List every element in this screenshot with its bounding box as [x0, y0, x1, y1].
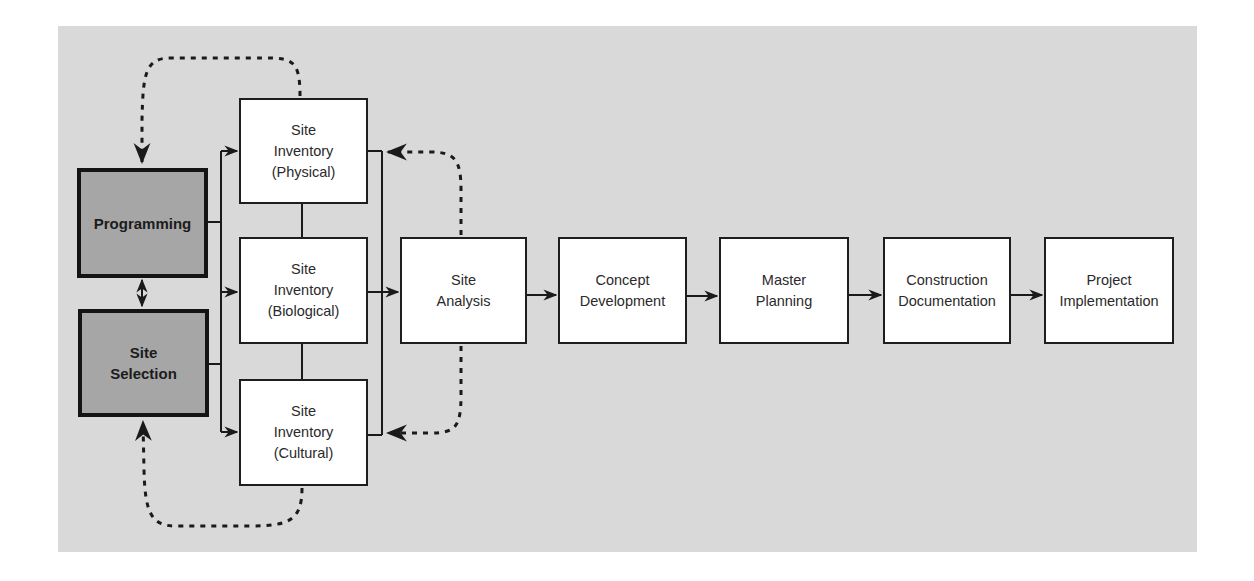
node-label: Site Selection [110, 342, 177, 384]
node-site-selection: Site Selection [78, 309, 209, 417]
node-label: Construction Documentation [898, 270, 996, 312]
node-site-inventory-physical: Site Inventory (Physical) [239, 98, 368, 204]
node-programming: Programming [77, 168, 208, 278]
node-label: Site Analysis [437, 270, 491, 312]
node-site-analysis: Site Analysis [400, 237, 527, 344]
node-label: Site Inventory (Biological) [268, 259, 340, 322]
node-label: Concept Development [580, 270, 665, 312]
node-label: Programming [94, 213, 192, 234]
node-label: Site Inventory (Physical) [272, 120, 336, 183]
node-label: Project Implementation [1059, 270, 1158, 312]
node-construction-documentation: Construction Documentation [883, 237, 1011, 344]
node-project-implementation: Project Implementation [1044, 237, 1174, 344]
node-site-inventory-biological: Site Inventory (Biological) [239, 237, 368, 344]
node-master-planning: Master Planning [719, 237, 849, 344]
node-concept-development: Concept Development [558, 237, 687, 344]
node-label: Master Planning [756, 270, 812, 312]
node-label: Site Inventory (Cultural) [274, 401, 334, 464]
node-site-inventory-cultural: Site Inventory (Cultural) [239, 379, 368, 486]
